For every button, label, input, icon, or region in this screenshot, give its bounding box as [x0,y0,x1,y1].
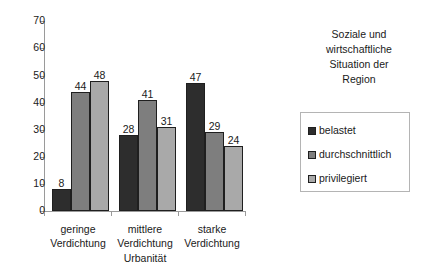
legend-title-line-4: Region [294,72,424,87]
y-tick-40: 40 [0,103,45,104]
y-tick-70: 70 [0,21,45,22]
legend-box: belastet durchschnittlich privilegiert [300,112,410,192]
legend-swatch-icon-durchschnittlich [308,151,316,159]
bar-privilegiert-starke[interactable]: 24 [224,146,243,211]
legend-swatch-icon-belastet [308,127,316,135]
bar-privilegiert-geringe[interactable]: 48 [90,81,109,211]
bar-belastet-geringe[interactable]: 8 [52,189,71,211]
x-tick-1 [111,212,112,216]
legend-item-privilegiert[interactable]: privilegiert [308,173,367,184]
bar-chart: 70 60 50 40 30 20 10 0 8 44 [0,0,285,279]
x-axis-line [44,211,246,212]
y-tick-10: 10 [0,184,45,185]
legend-label-durchschnittlich: durchschnittlich [319,149,391,160]
legend-title-line-2: wirtschaftliche [294,42,424,57]
x-tick-2 [178,212,179,216]
bar-privilegiert-mittlere[interactable]: 31 [157,127,176,211]
legend-item-belastet[interactable]: belastet [308,125,356,136]
y-tick-30: 30 [0,130,45,131]
y-tick-60: 60 [0,48,45,49]
legend-title: Soziale und wirtschaftliche Situation de… [294,27,424,87]
bar-durchschnittlich-starke[interactable]: 29 [205,132,224,211]
y-tick-0: 0 [0,211,45,212]
legend-title-line-3: Situation der [294,57,424,72]
bar-belastet-mittlere[interactable]: 28 [119,135,138,211]
bar-belastet-starke[interactable]: 47 [186,83,205,211]
x-tick-0 [44,212,45,216]
legend-label-belastet: belastet [319,125,356,136]
legend-swatch-icon-privilegiert [308,175,316,183]
legend-label-privilegiert: privilegiert [319,173,367,184]
y-tick-50: 50 [0,76,45,77]
category-label-starke-verdichtung: starke Verdichtung [167,222,257,250]
bar-group-starke-verdichtung: 47 29 24 [186,21,244,211]
x-axis-title: Urbanität [44,252,246,265]
legend-item-durchschnittlich[interactable]: durchschnittlich [308,149,391,160]
y-tick-20: 20 [0,157,45,158]
bar-durchschnittlich-geringe[interactable]: 44 [71,92,90,211]
bar-group-mittlere-verdichtung: 28 41 31 [119,21,177,211]
legend-title-line-1: Soziale und [294,27,424,42]
bar-durchschnittlich-mittlere[interactable]: 41 [138,100,157,211]
x-tick-3 [245,212,246,216]
category-line-2: Verdichtung [167,236,257,250]
bar-group-geringe-verdichtung: 8 44 48 [52,21,110,211]
category-line-1: starke [167,222,257,236]
